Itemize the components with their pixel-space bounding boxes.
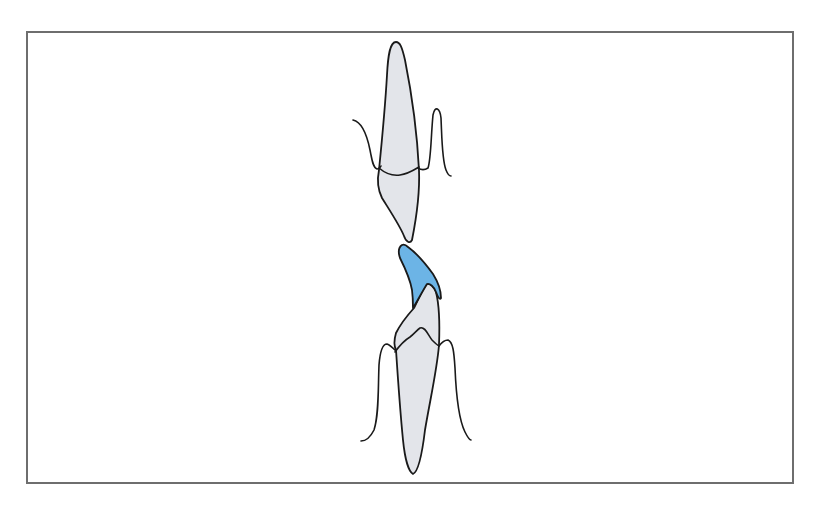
lower-tooth-body: [395, 284, 440, 474]
upper-tooth: [378, 42, 419, 242]
upper-tooth-body: [378, 42, 419, 242]
upper-gingiva-left: [353, 120, 381, 169]
dental-diagram: [0, 0, 823, 509]
upper-gingiva-right: [418, 109, 451, 176]
lower-tooth: [395, 284, 440, 474]
lower-gingiva-right: [439, 340, 471, 440]
lower-gingiva-left: [361, 344, 396, 441]
